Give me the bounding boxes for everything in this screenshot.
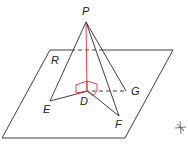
right-angle-mark-front — [87, 91, 97, 96]
asterisk-mark-icon — [175, 121, 186, 134]
label-d: D — [80, 95, 88, 107]
pyramid-edges — [50, 22, 126, 116]
label-r: R — [51, 54, 59, 66]
perpendicular-pd — [76, 22, 97, 96]
edge-pf — [86, 22, 119, 116]
right-angle-mark-back — [76, 81, 87, 91]
plane-left-edge — [2, 50, 50, 138]
label-f: F — [115, 118, 123, 130]
edge-pg — [86, 22, 126, 91]
diagram-canvas: P R D E F G — [0, 0, 188, 144]
label-p: P — [82, 5, 90, 17]
label-g: G — [131, 85, 140, 97]
plane-r — [2, 50, 173, 138]
label-e: E — [43, 103, 51, 115]
right-angle-mark-right — [87, 81, 97, 91]
